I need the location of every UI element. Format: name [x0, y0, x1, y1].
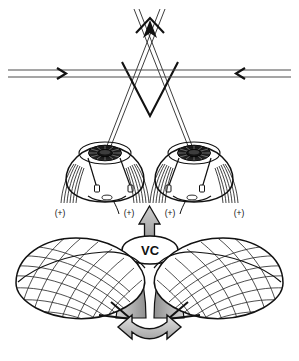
diagram-svg: (+) (+) (+) (+) VC: [0, 0, 299, 361]
plus-label-right-lateral: (+): [234, 208, 245, 218]
vc-node-label: VC: [141, 243, 160, 258]
plus-label-right-medial: (+): [165, 208, 176, 218]
plus-label-left-medial: (+): [124, 208, 135, 218]
plus-label-left-lateral: (+): [55, 208, 66, 218]
figure-canvas: (+) (+) (+) (+) VC: [0, 0, 299, 361]
